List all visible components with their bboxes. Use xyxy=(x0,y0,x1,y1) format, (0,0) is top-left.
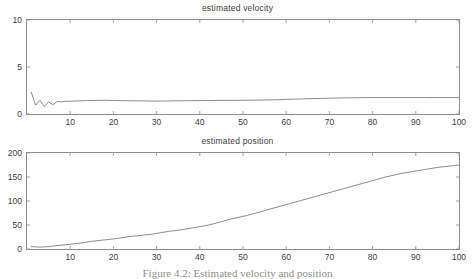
velocity-xtick-label: 60 xyxy=(281,118,290,127)
position-tick-marks xyxy=(27,153,459,249)
velocity-xtick-label: 20 xyxy=(109,118,118,127)
position-xtick-label: 80 xyxy=(368,253,377,262)
velocity-xtick-label: 90 xyxy=(411,118,420,127)
velocity-ytick-label: 0 xyxy=(0,110,22,119)
velocity-xtick-label: 100 xyxy=(452,118,466,127)
plot-area-position xyxy=(26,152,460,250)
position-ytick-label: 100 xyxy=(0,197,22,206)
position-xtick-label: 20 xyxy=(109,253,118,262)
velocity-xtick-label: 30 xyxy=(152,118,161,127)
plot-area-velocity xyxy=(26,19,460,115)
position-ytick-label: 200 xyxy=(0,149,22,158)
velocity-xtick-label: 40 xyxy=(195,118,204,127)
position-xtick-label: 100 xyxy=(452,253,466,262)
position-xtick-label: 10 xyxy=(65,253,74,262)
position-xtick-label: 70 xyxy=(325,253,334,262)
chart-estimated-velocity: estimated velocity 0510 1020304050607080… xyxy=(0,0,475,134)
position-xtick-label: 50 xyxy=(238,253,247,262)
position-xtick-label: 40 xyxy=(195,253,204,262)
velocity-xtick-label: 10 xyxy=(65,118,74,127)
position-line-svg xyxy=(27,153,459,249)
velocity-line-svg xyxy=(27,20,459,114)
position-data-line xyxy=(31,165,459,247)
chart-title-velocity: estimated velocity xyxy=(0,3,475,13)
chart-estimated-position: estimated position 050100150200 10203040… xyxy=(0,134,475,254)
velocity-xtick-label: 70 xyxy=(325,118,334,127)
position-ytick-label: 50 xyxy=(0,221,22,230)
position-xtick-label: 60 xyxy=(281,253,290,262)
position-ytick-label: 150 xyxy=(0,173,22,182)
velocity-xtick-label: 80 xyxy=(368,118,377,127)
position-xtick-label: 30 xyxy=(152,253,161,262)
velocity-data-line xyxy=(31,92,459,106)
position-ytick-label: 0 xyxy=(0,245,22,254)
position-xtick-label: 90 xyxy=(411,253,420,262)
figure-caption: Figure 4.2: Estimated velocity and posit… xyxy=(0,267,475,279)
velocity-ytick-label: 10 xyxy=(0,16,22,25)
velocity-ytick-label: 5 xyxy=(0,63,22,72)
velocity-xtick-label: 50 xyxy=(238,118,247,127)
chart-title-position: estimated position xyxy=(0,136,475,146)
figure-container: estimated velocity 0510 1020304050607080… xyxy=(0,0,475,279)
